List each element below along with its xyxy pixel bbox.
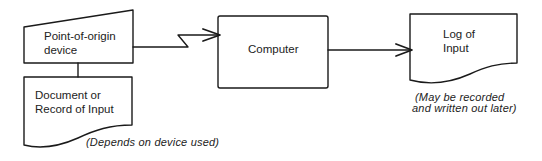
computer-label: Computer <box>248 42 299 56</box>
log-of-input-note-line2: and written out later) <box>412 103 517 114</box>
log-of-input-label-line1: Log of <box>443 27 475 41</box>
point-of-origin-label-line2: device <box>44 43 116 57</box>
log-of-input-note: (May be recorded and written out later) <box>412 92 517 114</box>
log-of-input-label: Log of Input <box>443 27 475 55</box>
flowchart-canvas <box>0 0 542 161</box>
document-record-label-line2: Record of Input <box>35 102 114 116</box>
document-record-label-line1: Document or <box>35 88 114 102</box>
log-of-input-label-line2: Input <box>443 41 475 55</box>
communication-link-line <box>133 35 219 47</box>
point-of-origin-label: Point-of-origin device <box>44 29 116 57</box>
document-record-label: Document or Record of Input <box>35 88 114 116</box>
point-of-origin-label-line1: Point-of-origin <box>44 29 116 43</box>
document-record-note: (Depends on device used) <box>86 137 219 148</box>
